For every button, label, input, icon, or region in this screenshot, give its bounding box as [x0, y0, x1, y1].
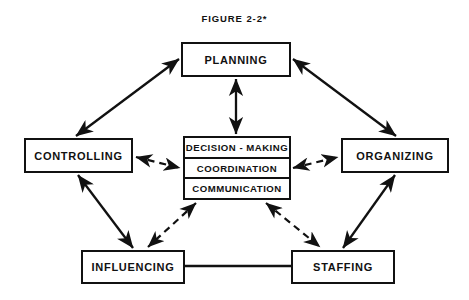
node-decision-making[interactable]: DECISION - MAKING [185, 138, 289, 159]
node-controlling-label: CONTROLLING [34, 150, 122, 162]
node-influencing-label: INFLUENCING [92, 261, 175, 273]
node-organizing-label: ORGANIZING [356, 150, 433, 162]
node-controlling[interactable]: CONTROLLING [24, 138, 133, 173]
edge-planning-organizing [293, 59, 396, 136]
node-planning[interactable]: PLANNING [181, 42, 291, 77]
node-decision-making-label: DECISION - MAKING [186, 142, 288, 153]
node-coordination-label: COORDINATION [197, 163, 277, 174]
node-center-stack: DECISION - MAKING COORDINATION COMMUNICA… [183, 136, 291, 200]
node-planning-label: PLANNING [204, 54, 267, 66]
edge-organizing-staffing [343, 175, 395, 248]
node-staffing-label: STAFFING [313, 261, 373, 273]
figure-canvas: FIGURE 2-2* PLANNING [0, 0, 469, 300]
node-communication[interactable]: COMMUNICATION [185, 179, 289, 198]
edge-controlling-influencing [78, 175, 133, 248]
node-organizing[interactable]: ORGANIZING [341, 138, 449, 173]
edge-communication-staffing [266, 203, 320, 247]
edge-controlling-planning [76, 59, 179, 136]
edge-communication-influencing [148, 203, 196, 247]
node-communication-label: COMMUNICATION [192, 183, 281, 194]
edge-coordination-organizing [293, 157, 338, 168]
node-staffing[interactable]: STAFFING [291, 250, 395, 284]
node-coordination[interactable]: COORDINATION [185, 159, 289, 180]
node-influencing[interactable]: INFLUENCING [81, 250, 185, 284]
edge-controlling-coordination [136, 157, 180, 168]
